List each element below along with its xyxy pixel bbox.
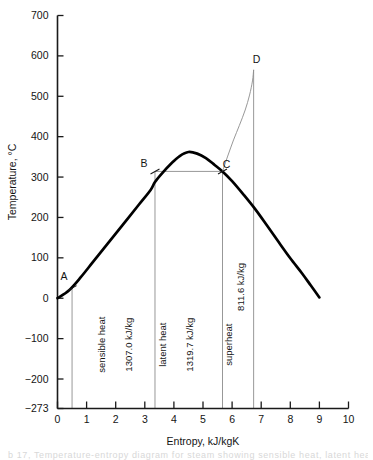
x-tick-label: 9 [316,413,322,425]
band-label-sensible-heat-value: 1307.0 kJ/kg [123,318,134,372]
y-tick-label: −273 [25,402,49,414]
band-label-latent-heat-value: 1319.7 kJ/kg [184,318,195,372]
x-tick-label: 8 [287,413,293,425]
band-label-superheat: superheat [223,323,234,366]
y-tick-label: −100 [25,332,49,344]
x-tick-label: 0 [55,413,61,425]
band-label-latent-heat: latent heat [157,322,168,367]
x-axis-title: Entropy, kJ/kgK [167,435,240,447]
x-tick-label: 3 [142,413,148,425]
band-label-sensible-heat: sensible heat [96,316,107,372]
x-tick-label: 5 [200,413,206,425]
x-tick-label: 6 [229,413,235,425]
y-tick-label: 200 [31,211,49,223]
figure-caption: b 17, Temperature-entropy diagram for st… [8,450,368,460]
y-tick-label: 600 [31,49,49,61]
y-axis-title: Temperature, °C [6,143,18,220]
y-tick-label: 300 [31,171,49,183]
x-tick-label: 1 [84,413,90,425]
y-tick-label: 100 [31,251,49,263]
x-tick-label: 4 [171,413,177,425]
y-tick-label: 0 [43,292,49,304]
point-label-a: A [61,270,68,282]
x-tick-label: 7 [258,413,264,425]
band-label-superheat-value: 811.6 kJ/kg [235,263,246,311]
y-tick-label: −200 [25,373,49,385]
point-label-d: D [253,53,261,65]
y-tick-label: 400 [31,130,49,142]
point-label-c: C [223,158,231,170]
x-tick-label: 10 [343,413,355,425]
point-label-b: B [140,157,147,169]
y-tick-label: 500 [31,90,49,102]
y-tick-label: 700 [31,9,49,21]
x-tick-label: 2 [113,413,119,425]
